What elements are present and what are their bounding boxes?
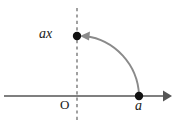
rotation-arrowhead: [80, 32, 90, 41]
point-ax-label: ax: [39, 27, 52, 41]
diagram-canvas: [0, 0, 176, 128]
point-ax-dot: [73, 32, 81, 40]
rotation-arc: [85, 36, 139, 95]
point-a-label: a: [135, 99, 142, 113]
horizontal-axis-arrowhead: [163, 91, 172, 102]
math-diagram-rotation: ax O a: [0, 0, 176, 128]
origin-label: O: [60, 98, 69, 111]
